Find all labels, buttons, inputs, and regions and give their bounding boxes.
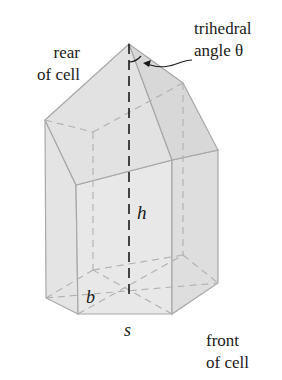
trihedral-label-line2: angle θ — [194, 40, 252, 62]
front-label-line2: of cell — [206, 352, 249, 374]
rear-of-cell-label: rear of cell — [0, 42, 80, 86]
rear-label-line2: of cell — [0, 64, 80, 86]
base-b-label: b — [86, 287, 95, 308]
rear-label-line1: rear — [0, 42, 80, 64]
front-of-cell-label: front of cell — [206, 330, 249, 374]
side-s-label: s — [124, 320, 131, 341]
trihedral-label-line1: trihedral — [194, 18, 252, 40]
trihedral-angle-label: trihedral angle θ — [194, 18, 252, 62]
front-label-line1: front — [206, 330, 249, 352]
height-label: h — [137, 202, 147, 224]
